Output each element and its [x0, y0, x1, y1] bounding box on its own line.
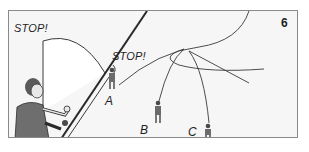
label-b: B	[140, 124, 148, 136]
label-c: C	[188, 126, 197, 138]
rod-arc-outline	[43, 38, 105, 111]
figure-number: 6	[281, 17, 288, 29]
figure-b	[155, 101, 161, 123]
stop-label-mid: STOP!	[112, 51, 146, 62]
illustration-frame: STOP! STOP! A B C 6	[8, 10, 298, 138]
casting-illustration	[9, 11, 298, 138]
fly-line-loop-b	[159, 49, 264, 101]
fly-line-loop-c	[189, 51, 249, 123]
stop-label-top: STOP!	[14, 23, 48, 34]
label-a: A	[105, 95, 113, 107]
figure-a	[109, 68, 115, 89]
figure-c	[205, 124, 211, 138]
